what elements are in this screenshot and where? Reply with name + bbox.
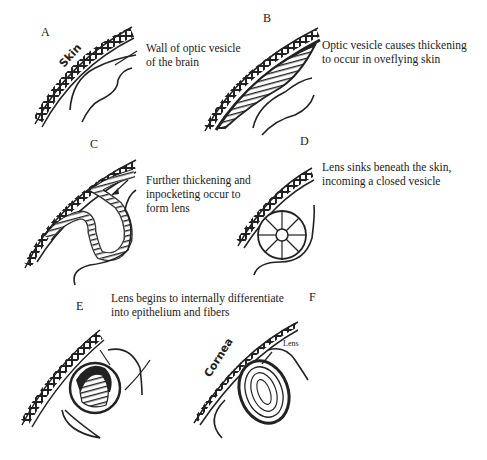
caption-a: Wall of optic vesicle of the brain bbox=[146, 41, 241, 69]
caption-b: Optic vesicle causes thickening to occur… bbox=[322, 38, 467, 66]
panel-f-drawing: Cornea Lens bbox=[194, 322, 308, 438]
caption-c-line-1: Further thickening and bbox=[146, 173, 251, 187]
caption-e-line-2: into epithelium and fibers bbox=[111, 305, 284, 319]
lens-label: Lens bbox=[283, 339, 299, 348]
caption-e: Lens begins to internally differentiate … bbox=[111, 291, 284, 319]
panel-letter-f: F bbox=[309, 291, 316, 303]
caption-b-line-2: to occur in oveflying skin bbox=[322, 52, 467, 66]
caption-b-line-1: Optic vesicle causes thickening bbox=[322, 38, 467, 52]
panel-c-drawing bbox=[25, 160, 136, 285]
panel-letter-b: B bbox=[263, 12, 271, 24]
caption-c-line-3: form lens bbox=[146, 201, 251, 215]
caption-d-line-1: Lens sinks beneath the skin, bbox=[322, 160, 451, 174]
panel-letter-d: D bbox=[300, 135, 309, 147]
panel-a-drawing bbox=[35, 27, 137, 127]
panel-letter-c: C bbox=[90, 138, 98, 150]
caption-d: Lens sinks beneath the skin, incoming a … bbox=[322, 160, 451, 188]
caption-e-line-1: Lens begins to internally differentiate bbox=[111, 291, 284, 305]
panel-e-drawing bbox=[22, 330, 150, 438]
panel-letter-a: A bbox=[41, 26, 50, 38]
diagram-artwork: Cornea Lens Skin bbox=[0, 0, 487, 460]
caption-a-line-2: of the brain bbox=[146, 55, 241, 69]
caption-d-line-2: incoming a closed vesicle bbox=[322, 174, 451, 188]
caption-c-line-2: inpocketing occur to bbox=[146, 187, 251, 201]
caption-c: Further thickening and inpocketing occur… bbox=[146, 173, 251, 215]
caption-a-line-1: Wall of optic vesicle bbox=[146, 41, 241, 55]
lens-development-diagram: Cornea Lens Skin A B C D E F Wall of opt… bbox=[0, 0, 487, 460]
panel-letter-e: E bbox=[76, 300, 83, 312]
